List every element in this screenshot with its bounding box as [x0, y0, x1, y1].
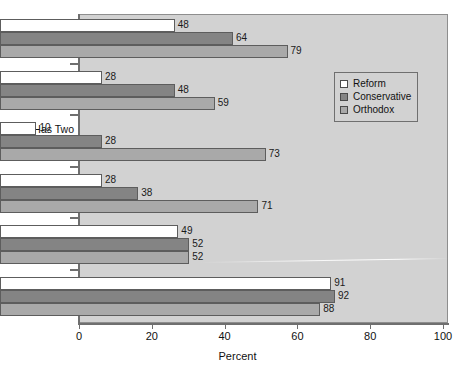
- bar-orthodox[interactable]: [0, 251, 189, 264]
- bar-conservative[interactable]: [0, 84, 175, 97]
- bar-reform[interactable]: [0, 225, 178, 238]
- bar-reform[interactable]: [0, 71, 102, 84]
- bar-row: 28: [0, 135, 369, 148]
- bar-value-label: 49: [181, 224, 192, 237]
- legend-label-reform: Reform: [353, 78, 386, 90]
- x-axis-tick-label: 60: [291, 330, 303, 342]
- legend-item-reform[interactable]: Reform: [340, 78, 411, 90]
- x-axis-tick-label: 40: [218, 330, 230, 342]
- bar-row: 79: [0, 45, 369, 58]
- x-axis-title: Percent: [0, 350, 475, 362]
- bar-row: 73: [0, 148, 369, 161]
- bar-reform[interactable]: [0, 174, 102, 187]
- bar-value-label: 73: [269, 147, 280, 160]
- bar-conservative[interactable]: [0, 290, 335, 303]
- bar-row: 28: [0, 174, 369, 187]
- bar-value-label: 10: [39, 121, 50, 134]
- x-axis-tick-label: 20: [146, 330, 158, 342]
- bar-group: 283871: [0, 174, 369, 213]
- bar-row: 71: [0, 200, 369, 213]
- x-axis-tick: [297, 325, 298, 329]
- bar-value-label: 48: [178, 83, 189, 96]
- x-axis-tick: [225, 325, 226, 329]
- bar-orthodox[interactable]: [0, 200, 258, 213]
- x-axis-tick: [152, 325, 153, 329]
- bar-reform[interactable]: [0, 122, 36, 135]
- bar-value-label: 71: [261, 199, 272, 212]
- bar-row: 52: [0, 238, 369, 251]
- bar-row: 10: [0, 122, 369, 135]
- x-axis-tick-label: 100: [434, 330, 452, 342]
- legend: Reform Conservative Orthodox: [334, 72, 418, 122]
- bar-value-label: 28: [105, 70, 116, 83]
- bar-value-label: 91: [334, 276, 345, 289]
- bar-value-label: 59: [218, 96, 229, 109]
- bar-row: 38: [0, 187, 369, 200]
- x-axis-tick: [443, 325, 444, 329]
- bar-value-label: 28: [105, 134, 116, 147]
- bar-value-label: 48: [178, 18, 189, 31]
- bar-value-label: 28: [105, 173, 116, 186]
- bar-value-label: 92: [338, 289, 349, 302]
- legend-label-conservative: Conservative: [353, 91, 411, 103]
- bar-group: 919288: [0, 277, 369, 316]
- legend-swatch-orthodox-icon: [340, 106, 348, 114]
- bar-row: 91: [0, 277, 369, 290]
- bar-row: 64: [0, 32, 369, 45]
- bar-conservative[interactable]: [0, 187, 138, 200]
- x-axis-tick-label: 0: [76, 330, 82, 342]
- bar-group: 284859: [0, 71, 369, 110]
- bar-row: 92: [0, 290, 369, 303]
- x-axis-tick-label: 80: [364, 330, 376, 342]
- bar-group: 495252: [0, 225, 369, 264]
- bar-row: 52: [0, 251, 369, 264]
- bar-value-label: 88: [323, 302, 334, 315]
- bar-value-label: 38: [141, 186, 152, 199]
- bar-conservative[interactable]: [0, 238, 189, 251]
- bar-value-label: 64: [236, 31, 247, 44]
- legend-label-orthodox: Orthodox: [353, 104, 394, 116]
- x-axis-tick: [370, 325, 371, 329]
- bar-orthodox[interactable]: [0, 303, 320, 316]
- bar-reform[interactable]: [0, 19, 175, 32]
- bar-orthodox[interactable]: [0, 148, 266, 161]
- bar-group: 486479: [0, 19, 369, 58]
- bar-orthodox[interactable]: [0, 97, 215, 110]
- legend-item-conservative[interactable]: Conservative: [340, 91, 411, 103]
- x-axis-tick: [79, 325, 80, 329]
- legend-swatch-conservative-icon: [340, 93, 348, 101]
- bar-value-label: 52: [192, 250, 203, 263]
- bar-conservative[interactable]: [0, 135, 102, 148]
- bar-row: 48: [0, 84, 369, 97]
- bar-conservative[interactable]: [0, 32, 233, 45]
- bar-row: 48: [0, 19, 369, 32]
- bar-orthodox[interactable]: [0, 45, 288, 58]
- bar-reform[interactable]: [0, 277, 331, 290]
- bar-value-label: 52: [192, 237, 203, 250]
- bar-value-label: 79: [291, 44, 302, 57]
- bar-row: 88: [0, 303, 369, 316]
- bar-chart: Most friends are JewishHas been to Israe…: [0, 0, 475, 373]
- legend-item-orthodox[interactable]: Orthodox: [340, 104, 411, 116]
- x-axis-line: [78, 323, 449, 325]
- bar-row: 59: [0, 97, 369, 110]
- bar-row: 49: [0, 225, 369, 238]
- legend-swatch-reform-icon: [340, 80, 348, 88]
- bar-group: 102873: [0, 122, 369, 161]
